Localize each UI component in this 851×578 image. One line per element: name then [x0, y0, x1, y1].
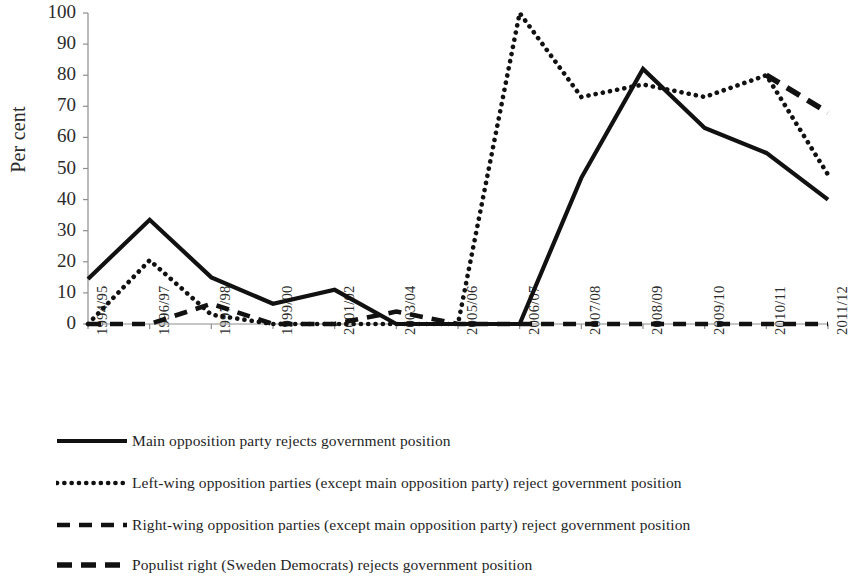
legend-item[interactable]: Main opposition party rejects government… — [56, 428, 451, 454]
legend-swatch-dashed-short-icon — [56, 555, 128, 575]
legend-label: Main opposition party rejects government… — [132, 432, 451, 450]
data-series — [88, 13, 828, 324]
legend-swatch-dotted-icon — [56, 473, 128, 493]
legend-label: Right-wing opposition parties (except ma… — [132, 516, 690, 534]
legend-item[interactable]: Populist right (Sweden Democrats) reject… — [56, 552, 532, 578]
series-line — [88, 69, 828, 324]
legend-label: Left-wing opposition parties (except mai… — [132, 474, 682, 492]
legend-label: Populist right (Sweden Democrats) reject… — [132, 556, 532, 574]
axes — [83, 13, 828, 329]
legend-item[interactable]: Right-wing opposition parties (except ma… — [56, 512, 690, 538]
legend-swatch-solid-icon — [56, 431, 128, 451]
chart-legend: Main opposition party rejects government… — [0, 424, 837, 565]
plot-area — [0, 0, 837, 430]
legend-swatch-dashed-long-icon — [56, 515, 128, 535]
series-line — [88, 13, 828, 324]
legend-item[interactable]: Left-wing opposition parties (except mai… — [56, 470, 682, 496]
